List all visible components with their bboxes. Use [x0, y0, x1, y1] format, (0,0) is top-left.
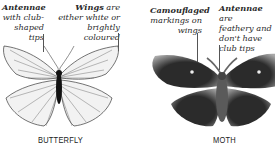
caption-line: brightly coloured — [84, 22, 120, 42]
butterfly-label: BUTTERFLY — [38, 136, 83, 146]
caption-bold: Camouflaged — [150, 5, 210, 15]
moth-label: MOTH — [213, 136, 236, 146]
caption-line: shaped tips — [14, 22, 44, 42]
caption-line: either white or — [58, 12, 120, 22]
butterfly-wings-caption: Wings are either white or brightly colou… — [50, 2, 120, 42]
caption-line: wings — [178, 25, 202, 35]
caption-text: are — [219, 13, 233, 23]
caption-bold: Antennae — [219, 3, 263, 13]
caption-line: feathery and — [219, 23, 272, 33]
caption-bold: Wings — [75, 2, 103, 12]
moth-markings-caption: Camouflaged markings on wings — [150, 5, 202, 35]
caption-text: are — [104, 2, 120, 12]
moth-illustration — [137, 40, 275, 140]
caption-bold: Antennae — [2, 2, 46, 12]
butterfly-illustration — [0, 40, 137, 140]
butterfly-antennae-caption: Antennae with club- shaped tips — [2, 2, 44, 42]
caption-line: with club- — [3, 12, 44, 22]
caption-line: markings on — [150, 15, 202, 25]
